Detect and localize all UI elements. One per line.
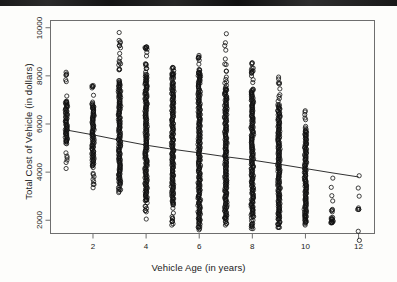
data-point xyxy=(91,93,95,97)
data-point xyxy=(223,41,227,45)
x-axis-ticks xyxy=(93,234,359,239)
data-point xyxy=(144,217,148,221)
plot-box xyxy=(51,21,375,234)
y-tick-label: 10000 xyxy=(34,17,43,39)
data-point xyxy=(357,194,361,198)
data-point xyxy=(223,43,227,47)
data-point xyxy=(64,166,68,170)
data-point xyxy=(224,32,228,36)
data-point xyxy=(118,51,122,55)
data-point xyxy=(65,94,69,98)
x-tick-label: 12 xyxy=(354,242,363,251)
data-point xyxy=(329,185,333,189)
data-point xyxy=(224,69,228,73)
data-point xyxy=(331,199,335,203)
data-point xyxy=(278,87,282,91)
plot-canvas xyxy=(0,0,397,282)
data-point xyxy=(251,78,255,82)
data-point xyxy=(64,160,68,164)
y-tick-label: 2000 xyxy=(34,211,43,229)
data-point xyxy=(224,48,228,52)
x-tick-label: 10 xyxy=(301,242,310,251)
y-axis-title: Total Cost of Vehicle (in dollars) xyxy=(23,42,34,222)
y-tick-label: 8000 xyxy=(34,67,43,85)
y-axis-ticks xyxy=(46,28,51,221)
x-axis-title: Vehicle Age (in years) xyxy=(0,262,397,273)
trend-line xyxy=(66,130,358,177)
data-point xyxy=(356,229,360,233)
data-point xyxy=(223,57,227,61)
data-point xyxy=(330,194,334,198)
x-tick-label: 4 xyxy=(144,242,148,251)
scatter-plot-figure: 24681012 200040006000800010000 Total Cos… xyxy=(0,0,397,282)
y-tick-label: 6000 xyxy=(34,115,43,133)
trend-line-layer xyxy=(66,130,358,177)
y-tick-label: 4000 xyxy=(34,163,43,181)
x-tick-label: 8 xyxy=(250,242,254,251)
data-point xyxy=(331,176,335,180)
x-tick-label: 6 xyxy=(197,242,201,251)
x-tick-label: 2 xyxy=(91,242,95,251)
data-point xyxy=(356,186,360,190)
data-points-layer xyxy=(63,30,361,242)
data-point xyxy=(117,30,121,34)
